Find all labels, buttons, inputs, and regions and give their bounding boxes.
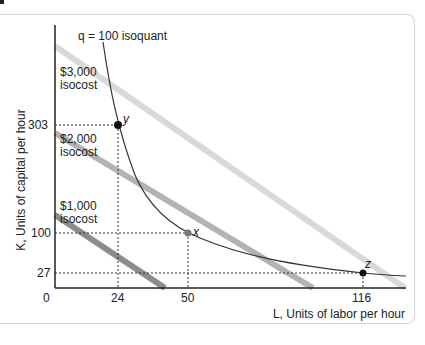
point-z-label: z — [364, 257, 371, 271]
x-tick-116: 116 — [352, 291, 371, 305]
isocost-1000-label-2: isocost — [60, 212, 98, 226]
isocost-3000-label-2: isocost — [60, 78, 98, 92]
x-tick-0: 0 — [43, 291, 50, 305]
point-x-label: x — [192, 225, 200, 239]
y-tick-303: 303 — [28, 118, 48, 132]
x-axis-label: L, Units of labor per hour — [273, 307, 405, 321]
x-tick-50: 50 — [181, 291, 195, 305]
x-tick-24: 24 — [111, 291, 125, 305]
isocost-1000-label-1: $1,000 — [60, 199, 97, 213]
point-y — [114, 121, 122, 129]
isoquant-label: q = 100 isoquant — [78, 29, 168, 43]
point-x — [185, 230, 192, 237]
isocost-2000-label-1: $2,000 — [60, 132, 97, 146]
isocost-2000-label-2: isocost — [60, 145, 98, 159]
y-tick-100: 100 — [31, 226, 51, 240]
isocost-3000-label-1: $3,000 — [60, 65, 97, 79]
isoquant-chart: y x z q = 100 isoquant $3,000 isocost $2… — [0, 0, 425, 345]
point-y-label: y — [122, 112, 130, 126]
isoquant-curve — [103, 42, 406, 276]
y-tick-27: 27 — [37, 266, 51, 280]
y-axis-label: K, Units of capital per hour — [14, 109, 28, 250]
